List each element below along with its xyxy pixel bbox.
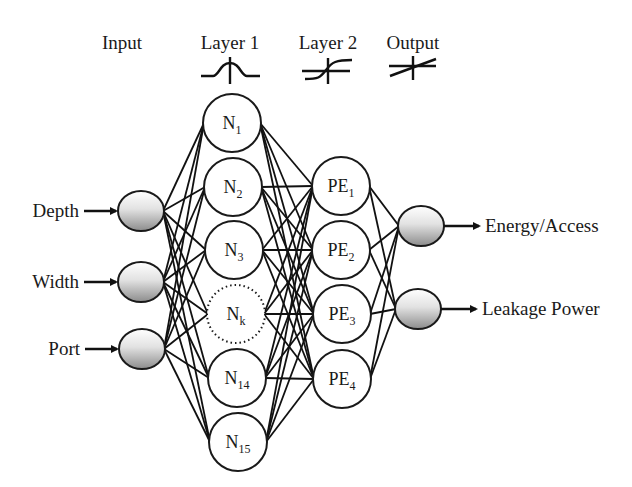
output-neuron <box>395 289 441 329</box>
header-input: Input <box>102 32 143 53</box>
layer2-node-pe4: PE4 <box>313 350 371 408</box>
input-node-width: Width <box>32 262 164 302</box>
sigmoid-icon <box>302 58 352 84</box>
layer1-node-n2: N2 <box>204 158 262 216</box>
input-neuron <box>118 262 164 302</box>
gaussian-icon <box>201 57 260 84</box>
output-label: Energy/Access <box>485 215 599 236</box>
neural-network-diagram: Input Layer 1 Layer 2 Output DepthWidthP… <box>0 0 632 487</box>
output-node-2: Leakage Power <box>395 289 600 329</box>
layer1-node-n1: N1 <box>203 94 261 152</box>
header-layer2: Layer 2 <box>299 32 358 53</box>
input-neuron <box>119 329 165 369</box>
output-label: Leakage Power <box>482 298 600 319</box>
output-layer: Energy/AccessLeakage Power <box>395 206 600 329</box>
input-label: Port <box>48 338 80 359</box>
output-node-1: Energy/Access <box>398 206 599 246</box>
hidden-layer-1: N1N2N3NkN14N15 <box>203 94 267 471</box>
layer2-node-pe1: PE1 <box>312 157 370 215</box>
input-label: Depth <box>33 200 80 221</box>
input-neuron <box>118 191 164 231</box>
input-label: Width <box>32 271 79 292</box>
input-node-port: Port <box>48 329 165 369</box>
header-output: Output <box>387 32 441 53</box>
layer1-node-nk: Nk <box>207 285 265 343</box>
input-node-depth: Depth <box>33 191 164 231</box>
output-neuron <box>398 206 444 246</box>
linear-icon <box>389 56 436 80</box>
layer1-node-n14: N14 <box>208 349 266 407</box>
layer2-node-pe2: PE2 <box>312 221 370 279</box>
header-layer1: Layer 1 <box>201 32 260 53</box>
input-layer: DepthWidthPort <box>32 191 165 369</box>
layer2-node-pe3: PE3 <box>313 285 371 343</box>
layer1-node-n3: N3 <box>205 221 263 279</box>
layer1-node-n15: N15 <box>209 413 267 471</box>
hidden-layer-2: PE1PE2PE3PE4 <box>312 157 371 408</box>
